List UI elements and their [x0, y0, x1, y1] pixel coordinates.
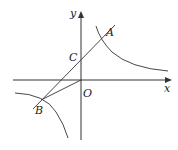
- point-b-label: B: [34, 104, 43, 117]
- diagram-canvas: y x O A C B: [0, 0, 178, 150]
- point-a-label: A: [105, 26, 114, 39]
- x-axis: [13, 77, 172, 83]
- origin-label: O: [83, 87, 92, 100]
- segment-ob: [41, 80, 81, 100]
- x-axis-label: x: [164, 82, 171, 95]
- point-c-label: C: [69, 51, 78, 64]
- y-axis-label: y: [69, 7, 77, 20]
- line-ab: [33, 25, 115, 109]
- y-axis-arrow-icon: [78, 11, 84, 18]
- y-axis: [78, 11, 84, 140]
